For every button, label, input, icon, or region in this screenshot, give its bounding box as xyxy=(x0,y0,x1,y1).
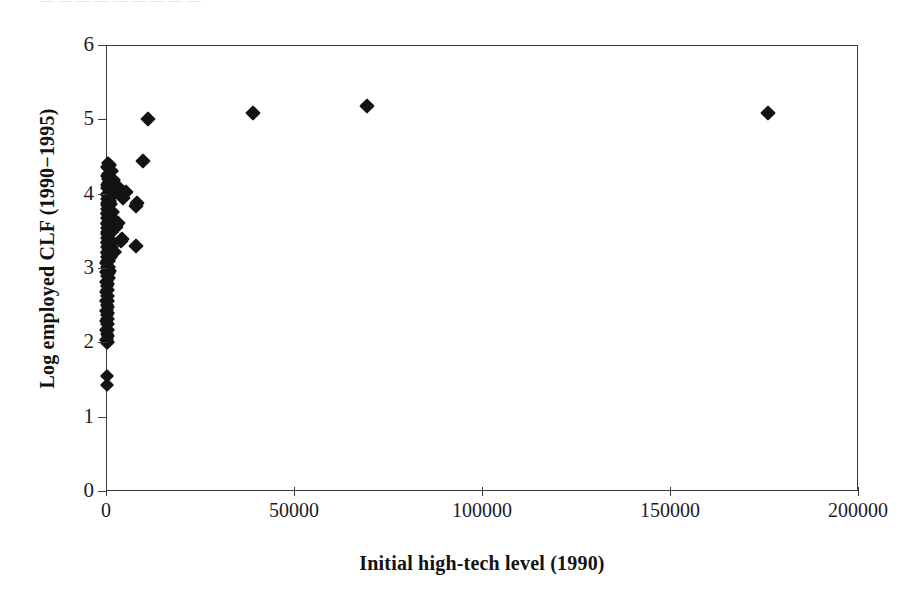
x-tick-mark xyxy=(482,487,483,496)
x-axis-label: Initial high-tech level (1990) xyxy=(106,552,858,575)
x-tick-label: 50000 xyxy=(269,500,319,520)
data-point-marker xyxy=(360,98,376,114)
y-tick-mark xyxy=(98,45,107,46)
y-tick-mark xyxy=(98,268,107,269)
x-tick-label: 200000 xyxy=(828,500,888,520)
x-tick-label: 100000 xyxy=(452,500,512,520)
data-point-marker xyxy=(128,238,144,254)
x-tick-mark xyxy=(294,487,295,496)
data-point-marker xyxy=(140,111,156,127)
data-point-marker xyxy=(135,153,151,169)
scan-artifact-text: — — — — — — — — — xyxy=(40,0,201,9)
x-tick-label: 0 xyxy=(101,500,111,520)
data-point-marker xyxy=(760,105,776,121)
y-axis-label: Log employed CLF (1990−1995) xyxy=(36,49,59,449)
data-point-marker xyxy=(245,106,261,122)
x-tick-mark xyxy=(106,487,107,496)
y-tick-label: 0 xyxy=(52,480,94,501)
y-tick-mark xyxy=(98,342,107,343)
x-tick-mark xyxy=(858,487,859,496)
plot-canvas xyxy=(106,45,858,491)
y-tick-mark xyxy=(98,417,107,418)
y-tick-mark xyxy=(98,194,107,195)
x-tick-mark xyxy=(670,487,671,496)
y-tick-mark xyxy=(98,119,107,120)
x-tick-label: 150000 xyxy=(640,500,700,520)
data-point-marker xyxy=(100,378,114,392)
scatter-plot-figure: — — — — — — — — — 0123456 05000010000015… xyxy=(0,0,921,602)
